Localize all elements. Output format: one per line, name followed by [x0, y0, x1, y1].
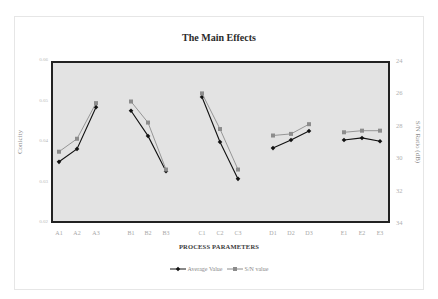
series-line	[202, 97, 238, 179]
square-marker-icon	[164, 168, 168, 172]
square-marker-icon	[271, 134, 275, 138]
square-marker-icon	[307, 122, 311, 126]
square-marker-icon	[75, 137, 79, 141]
square-marker-icon	[360, 129, 364, 133]
legend-label-sn: S/N value	[245, 266, 269, 272]
diamond-marker-icon	[271, 146, 276, 151]
series-line	[131, 111, 166, 171]
square-marker-icon	[378, 129, 382, 133]
diamond-marker-icon	[307, 129, 312, 134]
diamond-marker-icon	[170, 266, 186, 272]
diamond-marker-icon	[360, 136, 365, 141]
square-marker-icon	[342, 130, 346, 134]
legend-item-sn: S/N value	[227, 266, 269, 272]
series-line	[202, 93, 238, 169]
square-marker-icon	[236, 168, 240, 172]
legend-item-average: Average Value	[170, 266, 223, 272]
x-axis-title: PROCESS PARAMETERS	[0, 243, 438, 250]
square-marker-icon	[289, 132, 293, 136]
series-line	[59, 103, 96, 152]
series-layer	[0, 0, 438, 299]
square-marker-icon	[227, 266, 243, 272]
square-marker-icon	[94, 101, 98, 105]
square-marker-icon	[218, 127, 222, 131]
square-marker-icon	[129, 100, 133, 104]
square-marker-icon	[57, 150, 61, 154]
diamond-marker-icon	[342, 138, 347, 143]
diamond-marker-icon	[218, 140, 223, 145]
series-line	[59, 107, 96, 162]
square-marker-icon	[200, 91, 204, 95]
legend: Average Value S/N value	[0, 266, 438, 272]
diamond-marker-icon	[378, 139, 383, 144]
diamond-marker-icon	[289, 138, 294, 143]
diamond-marker-icon	[236, 177, 241, 182]
square-marker-icon	[146, 121, 150, 125]
legend-label-average: Average Value	[188, 266, 223, 272]
